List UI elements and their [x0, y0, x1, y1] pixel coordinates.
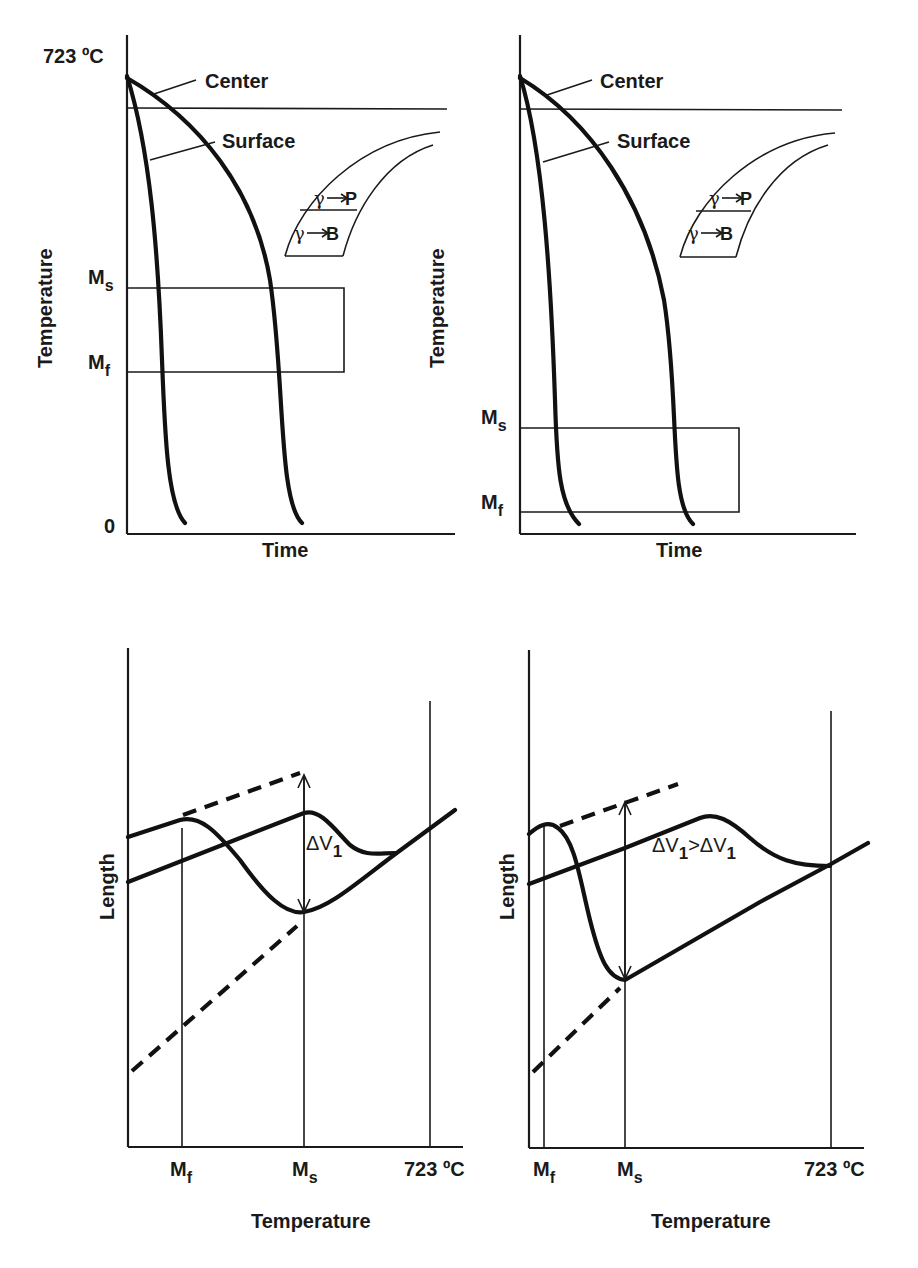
- x-axis-label: Temperature: [251, 1210, 371, 1232]
- a1-line: [520, 109, 842, 110]
- t723-tick: 723 ºC: [804, 1158, 865, 1180]
- center-leader: [547, 80, 592, 95]
- y-axis-label: Temperature: [426, 248, 448, 368]
- center-label: Center: [205, 70, 269, 92]
- ms-label: Ms: [88, 266, 114, 294]
- surface-label: Surface: [222, 130, 295, 152]
- x-axis-label: Time: [656, 539, 702, 561]
- y-axis-label: Temperature: [34, 248, 56, 368]
- a1-line: [127, 108, 447, 109]
- gamma-symbol: γ: [688, 223, 699, 244]
- dashed-lower-extrapolation: [533, 988, 620, 1072]
- y-tick-zero: 0: [104, 515, 115, 537]
- y-axis-label: Length: [496, 853, 518, 920]
- pearlite-label: P: [345, 189, 357, 209]
- gamma-symbol: γ: [709, 188, 720, 209]
- diagram-canvas: 723 ºC 0 Center Surface Ms Mf Temperatur…: [0, 0, 918, 1268]
- y-axis-label: Length: [96, 853, 118, 920]
- surface-curve: [520, 76, 579, 524]
- x-axis-label: Temperature: [651, 1210, 771, 1232]
- panel-top-right: Center Surface Ms Mf Temperature Time γ …: [426, 35, 856, 561]
- t723-tick: 723 ºC: [404, 1158, 465, 1180]
- surface-leader: [150, 142, 215, 160]
- dashed-lower-extrapolation: [132, 926, 297, 1071]
- gamma-symbol: γ: [294, 223, 305, 244]
- surface-label: Surface: [617, 130, 690, 152]
- mf-label: Mf: [481, 491, 504, 519]
- y-tick-723: 723 ºC: [43, 45, 104, 67]
- surface-curve: [127, 76, 185, 523]
- panel-top-left: 723 ºC 0 Center Surface Ms Mf Temperatur…: [34, 35, 455, 561]
- bainite-label: B: [326, 224, 339, 244]
- dashed-upper-extrapolation: [560, 784, 678, 826]
- pearlite-label: P: [740, 189, 752, 209]
- panel-bottom-right: ΔV1>ΔV1 Length Mf Ms 723 ºC Temperature: [496, 650, 868, 1232]
- center-leader: [154, 80, 196, 94]
- panel-bottom-left: ΔV1 Length Mf Ms 723 ºC Temperature: [96, 648, 465, 1232]
- ms-tick: Ms: [292, 1158, 318, 1186]
- ttt-outer-curve: [285, 132, 440, 256]
- ms-label: Ms: [481, 406, 507, 434]
- delta-v-label: ΔV1: [306, 832, 342, 861]
- dashed-upper-extrapolation: [183, 773, 300, 815]
- x-axis-label: Time: [262, 539, 308, 561]
- bainite-label: B: [720, 224, 733, 244]
- mf-label: Mf: [88, 351, 111, 379]
- martensite-band: [520, 428, 739, 512]
- mf-tick: Mf: [533, 1158, 556, 1186]
- mf-tick: Mf: [170, 1158, 193, 1186]
- delta-v-comparison-label: ΔV1>ΔV1: [652, 834, 736, 863]
- ms-tick: Ms: [617, 1158, 643, 1186]
- center-label: Center: [600, 70, 664, 92]
- gamma-symbol: γ: [314, 188, 325, 209]
